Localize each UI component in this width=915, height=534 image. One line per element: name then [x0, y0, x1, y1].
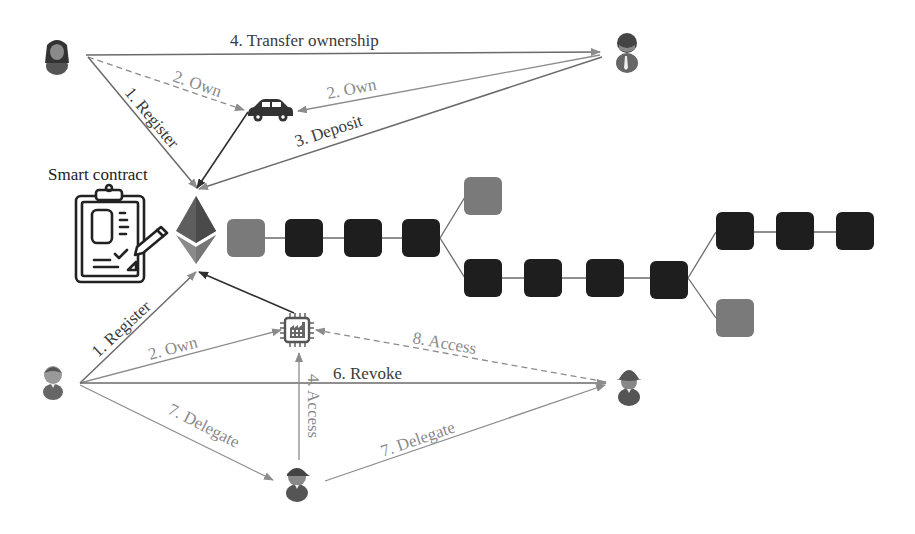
- iot-chip-factory-icon: [280, 313, 314, 347]
- blockchain: [227, 177, 874, 337]
- block: [344, 219, 382, 257]
- block: [586, 259, 624, 297]
- label-deposit: 3. Deposit: [292, 111, 365, 151]
- label-access-4: 4. Access: [304, 374, 323, 438]
- label-own-top-right: 2. Own: [325, 75, 378, 103]
- edge-iot-to-eth: [199, 272, 294, 313]
- edge-deposit: [199, 57, 602, 189]
- block-orphan: [464, 177, 502, 215]
- edge-car-to-eth: [197, 112, 248, 188]
- car-icon: [248, 99, 293, 122]
- edge-register-bottom: [80, 272, 196, 383]
- block-genesis: [227, 219, 265, 257]
- label-own-top-left: 2. Own: [171, 67, 225, 101]
- label-register-top: 1. Register: [121, 83, 183, 152]
- label-register-bottom: 1. Register: [88, 297, 155, 361]
- label-revoke: 6. Revoke: [333, 364, 402, 383]
- ethereum-icon: [176, 196, 216, 264]
- user-cap-icon: [286, 468, 310, 502]
- label-transfer-ownership: 4. Transfer ownership: [230, 31, 379, 50]
- user-male-icon: [43, 366, 63, 400]
- block-orphan: [716, 299, 754, 337]
- block: [716, 212, 754, 250]
- edge-delegate-right: [325, 385, 605, 481]
- block: [285, 219, 323, 257]
- edge-transfer-ownership: [86, 52, 600, 55]
- block: [402, 219, 440, 257]
- label-smart-contract: Smart contract: [48, 165, 148, 184]
- block: [836, 212, 874, 250]
- clipboard-contract-icon: [76, 185, 167, 282]
- block: [650, 261, 688, 299]
- user-female-icon: [45, 40, 69, 75]
- label-delegate-right: 7. Delegate: [378, 418, 457, 461]
- label-delegate-left: 7. Delegate: [165, 400, 243, 452]
- diagram-canvas: 4. Transfer ownership 2. Own 2. Own 1. R…: [0, 0, 915, 534]
- edge-delegate-left: [80, 385, 273, 480]
- user-hat-icon: [616, 370, 642, 406]
- user-male-tie-icon: [616, 33, 638, 73]
- block: [776, 212, 814, 250]
- block: [524, 259, 562, 297]
- block: [464, 259, 502, 297]
